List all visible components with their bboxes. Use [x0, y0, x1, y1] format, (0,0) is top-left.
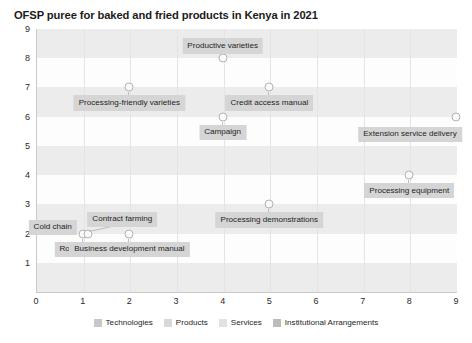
y-axis-tick-label: 3 — [14, 199, 30, 209]
x-axis-tick-label: 6 — [313, 296, 318, 306]
legend-item[interactable]: Services — [219, 318, 262, 327]
x-axis-tick-label: 8 — [407, 296, 412, 306]
legend-swatch — [219, 319, 227, 327]
grid-band — [37, 146, 457, 175]
y-axis-tick-label: 4 — [14, 170, 30, 180]
y-axis-tick-label: 7 — [14, 82, 30, 92]
grid-line-vertical — [317, 29, 318, 292]
x-axis-tick-label: 2 — [127, 296, 132, 306]
legend-label: Institutional Arrangements — [285, 318, 379, 327]
data-point-marker[interactable] — [265, 200, 274, 209]
legend-label: Services — [231, 318, 262, 327]
data-point-marker[interactable] — [452, 112, 461, 121]
y-axis-tick-label: 6 — [14, 112, 30, 122]
legend-label: Technologies — [106, 318, 153, 327]
data-point-label: Cold chain — [29, 220, 77, 235]
x-axis-tick-label: 4 — [220, 296, 225, 306]
data-point-label: Processing demonstrations — [216, 212, 324, 227]
grid-line-vertical — [270, 29, 271, 292]
chart-legend: TechnologiesProductsServicesInstitutiona… — [0, 318, 472, 327]
legend-label: Products — [176, 318, 208, 327]
y-axis-tick-label: 9 — [14, 24, 30, 34]
data-point-label: Processing equipment — [364, 183, 454, 198]
grid-line-vertical — [410, 29, 411, 292]
x-axis-tick-label: 7 — [360, 296, 365, 306]
chart-container: OFSP puree for baked and fried products … — [0, 0, 472, 343]
data-point-label: Credit access manual — [225, 95, 313, 110]
data-point-label: Business development manual — [69, 242, 189, 257]
data-point-marker[interactable] — [405, 171, 414, 180]
grid-band — [37, 263, 457, 292]
data-point-marker[interactable] — [265, 83, 274, 92]
data-point-label: Contract farming — [87, 212, 157, 227]
legend-item[interactable]: Technologies — [94, 318, 153, 327]
legend-swatch — [273, 319, 281, 327]
legend-item[interactable]: Products — [164, 318, 208, 327]
grid-line-vertical — [224, 29, 225, 292]
data-point-marker[interactable] — [218, 54, 227, 63]
legend-swatch — [164, 319, 172, 327]
x-axis-tick-label: 5 — [267, 296, 272, 306]
data-point-label: Extension service delivery — [358, 127, 462, 142]
x-axis-tick-label: 1 — [80, 296, 85, 306]
legend-item[interactable]: Institutional Arrangements — [273, 318, 379, 327]
data-point-label: Productive varieties — [182, 38, 263, 53]
y-axis-tick-label: 5 — [14, 141, 30, 151]
data-point-label: Processing-friendly varieties — [74, 95, 185, 110]
x-axis-tick-label: 9 — [453, 296, 458, 306]
data-point-marker[interactable] — [125, 83, 134, 92]
x-axis-tick-label: 3 — [173, 296, 178, 306]
y-axis-tick-label: 1 — [14, 258, 30, 268]
grid-line-vertical — [364, 29, 365, 292]
data-point-label: Campaign — [199, 125, 246, 140]
data-point-marker[interactable] — [125, 229, 134, 238]
x-axis-tick-label: 0 — [33, 296, 38, 306]
chart-title: OFSP puree for baked and fried products … — [14, 9, 318, 21]
y-axis-tick-label: 8 — [14, 53, 30, 63]
legend-swatch — [94, 319, 102, 327]
data-point-marker[interactable] — [218, 112, 227, 121]
